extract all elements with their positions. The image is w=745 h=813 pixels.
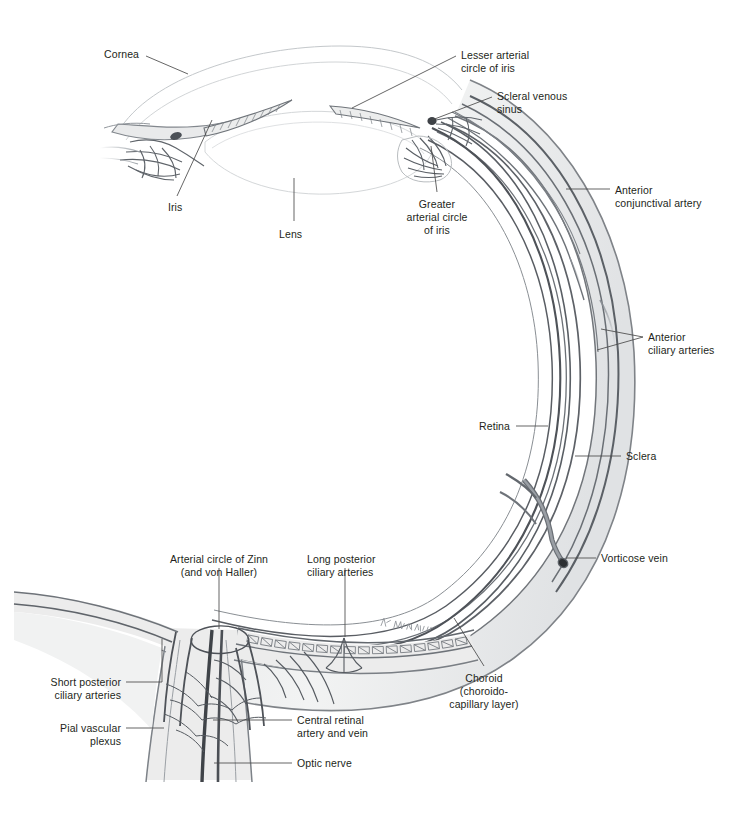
choriocapillaris-cell (552, 404, 559, 414)
choriocapillaris-cell (553, 379, 559, 389)
figure-canvas: CorneaLesser arterial circle of irisScle… (0, 0, 745, 813)
choriocapillaris-cell (361, 636, 371, 643)
label-long-posterior-ciliary-arteries: Long posterior ciliary arteries (307, 553, 376, 579)
choriocapillaris-cell (549, 317, 556, 328)
label-short-posterior-ciliary-arteries: Short posterior ciliary arteries (0, 676, 121, 702)
label-greater-arterial-circle: Greater arterial circle of iris (347, 198, 527, 238)
choriocapillaris-cell (553, 366, 559, 376)
choriocapillaris-cell (553, 354, 559, 364)
label-scleral-venous-sinus: Scleral venous sinus (497, 90, 567, 116)
label-central-retinal-artery-vein: Central retinal artery and vein (297, 714, 368, 740)
label-arterial-circle-of-zinn: Arterial circle of Zinn (and von Haller) (129, 553, 309, 579)
label-iris: Iris (168, 201, 182, 214)
label-lens: Lens (279, 228, 302, 241)
iris-ciliary-body-left (100, 100, 292, 180)
choriocapillaris-cell (553, 391, 559, 401)
greater-arterial-circle-left (120, 140, 204, 180)
choriocapillaris-cell (550, 329, 557, 339)
choriocapillaris-cell (385, 631, 396, 639)
label-anterior-conjunctival-artery: Anterior conjunctival artery (615, 184, 702, 210)
choriocapillaris-cell (373, 634, 384, 642)
label-choroid: Choroid (choroido- capillary layer) (394, 672, 574, 712)
choriocapillaris-cell (550, 416, 557, 426)
label-pial-vascular-plexus: Pial vascular plexus (0, 722, 121, 748)
leader-cornea (146, 56, 188, 74)
ciliary-processes-left (204, 100, 292, 136)
choriocapillaris-cell (552, 341, 559, 351)
label-lesser-arterial-circle: Lesser arterial circle of iris (461, 49, 529, 75)
label-optic-nerve: Optic nerve (297, 757, 352, 770)
label-anterior-ciliary-arteries: Anterior ciliary arteries (648, 331, 714, 357)
label-cornea: Cornea (104, 48, 139, 61)
label-vorticose-vein: Vorticose vein (601, 552, 668, 565)
scleral-venous-sinus-lumen (427, 117, 436, 125)
label-sclera: Sclera (626, 450, 656, 463)
label-retina: Retina (479, 420, 510, 433)
ciliary-processes-right (330, 106, 420, 128)
